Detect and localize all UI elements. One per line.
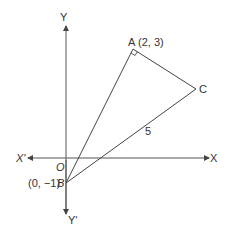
side-AC <box>133 49 196 89</box>
y-neg-axis-label: Y' <box>68 214 77 226</box>
coordinate-diagram: Y Y' X X' O A (2, 3) C (0, −1) B 5 <box>0 0 227 231</box>
side-BC <box>66 89 196 183</box>
point-B-coords: (0, −1) <box>28 177 60 189</box>
origin-label: O <box>56 161 65 173</box>
point-B-label: B <box>57 177 64 189</box>
y-axis-label: Y <box>60 11 68 23</box>
side-AB <box>66 49 133 183</box>
x-neg-axis-label: X' <box>15 152 26 164</box>
point-A-coords: (2, 3) <box>138 36 164 48</box>
point-C-label: C <box>199 83 207 95</box>
point-A-label: A <box>128 36 136 48</box>
x-axis-label: X <box>210 152 218 164</box>
side-BC-length: 5 <box>145 125 151 137</box>
